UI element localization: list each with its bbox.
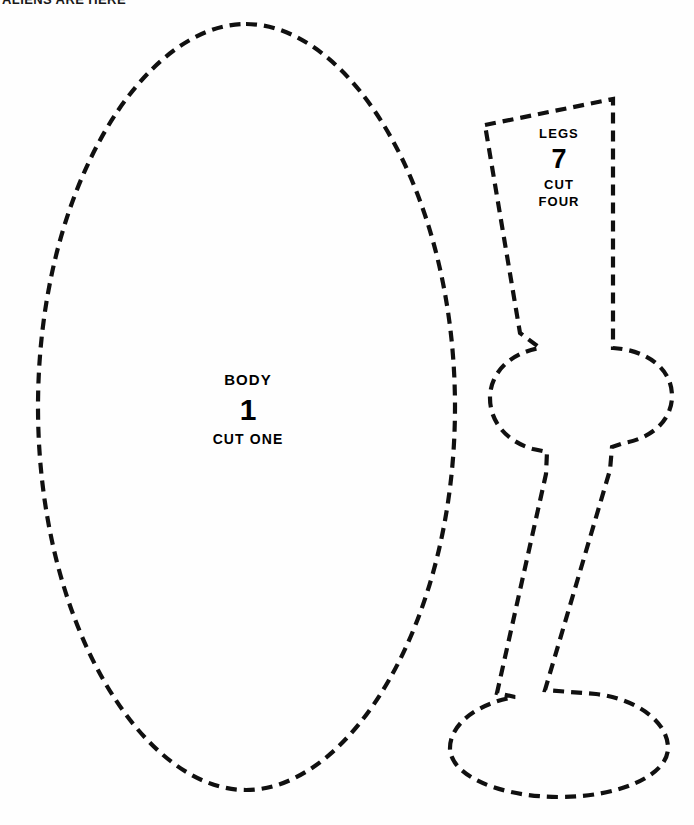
page-header: ALIENS ARE HERE — [0, 0, 694, 7]
legs-piece-cut-instruction: CUT — [516, 177, 602, 192]
legs-piece-number: 7 — [516, 146, 602, 173]
body-piece-name: BODY — [178, 371, 318, 388]
body-piece-cut-instruction: CUT ONE — [178, 431, 318, 447]
body-piece-label: BODY 1 CUT ONE — [178, 371, 318, 447]
page-header-text: ALIENS ARE HERE — [2, 0, 126, 7]
legs-piece-label: LEGS 7 CUT FOUR — [516, 126, 602, 209]
legs-piece-cut-instruction-second: FOUR — [516, 194, 602, 209]
pattern-sheet-page: ALIENS ARE HERE BODY 1 CUT ONE LEGS 7 CU… — [0, 0, 694, 825]
legs-piece-name: LEGS — [516, 126, 602, 141]
body-piece-number: 1 — [178, 395, 318, 425]
pattern-artwork — [0, 0, 694, 825]
